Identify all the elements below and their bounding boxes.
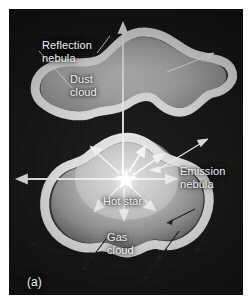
figure-panel-a: Reflection nebula Dust cloud Emission ne… bbox=[0, 0, 251, 303]
sky-panel: Reflection nebula Dust cloud Emission ne… bbox=[9, 9, 243, 295]
star-icon bbox=[9, 9, 243, 295]
